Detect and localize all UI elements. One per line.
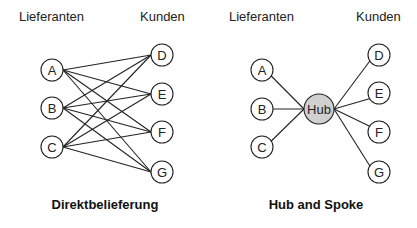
svg-text:F: F — [158, 125, 166, 140]
customer-node-g: G — [368, 161, 390, 183]
suppliers-header: Lieferanten — [229, 9, 294, 24]
edges — [63, 55, 151, 172]
edge — [271, 109, 304, 142]
customers-header: Kunden — [356, 9, 401, 24]
svg-text:C: C — [47, 140, 56, 155]
svg-text:G: G — [374, 165, 384, 180]
svg-text:F: F — [375, 125, 383, 140]
svg-text:B: B — [258, 102, 267, 117]
edge — [63, 147, 151, 172]
svg-text:D: D — [157, 48, 166, 63]
edge — [334, 99, 370, 110]
nodes: ABCDEFGHub — [251, 44, 390, 183]
customer-node-d: D — [151, 44, 173, 66]
customer-node-f: F — [151, 121, 173, 143]
edge — [271, 76, 304, 110]
svg-text:B: B — [48, 101, 57, 116]
edge — [334, 61, 370, 110]
hub-node: Hub — [304, 94, 334, 124]
supplier-node-c: C — [251, 136, 273, 158]
hub-and-spoke-caption: Hub and Spoke — [269, 197, 364, 212]
supplier-node-a: A — [251, 59, 273, 81]
edge — [63, 55, 151, 147]
svg-text:A: A — [258, 63, 267, 78]
direct-delivery-caption: Direktbelieferung — [52, 197, 159, 212]
customers-header: Kunden — [140, 9, 185, 24]
customer-node-f: F — [368, 121, 390, 143]
svg-text:D: D — [374, 48, 383, 63]
suppliers-header: Lieferanten — [19, 9, 84, 24]
svg-text:C: C — [257, 140, 266, 155]
supplier-node-a: A — [41, 59, 63, 81]
svg-text:Hub: Hub — [307, 102, 331, 117]
supplier-node-b: B — [251, 98, 273, 120]
diagram-canvas: Lieferanten Kunden ABCDEFG Direktbeliefe… — [0, 0, 417, 228]
svg-text:E: E — [158, 87, 167, 102]
supplier-node-b: B — [41, 97, 63, 119]
customer-node-e: E — [368, 82, 390, 104]
hub-and-spoke-diagram: Lieferanten Kunden ABCDEFGHub Hub and Sp… — [229, 9, 401, 212]
customer-node-g: G — [151, 161, 173, 183]
nodes: ABCDEFG — [41, 44, 173, 183]
svg-text:G: G — [157, 165, 167, 180]
direct-delivery-diagram: Lieferanten Kunden ABCDEFG Direktbeliefe… — [19, 9, 185, 212]
svg-text:E: E — [375, 86, 384, 101]
customer-node-e: E — [151, 83, 173, 105]
svg-text:A: A — [48, 63, 57, 78]
customer-node-d: D — [368, 44, 390, 66]
supplier-node-c: C — [41, 136, 63, 158]
